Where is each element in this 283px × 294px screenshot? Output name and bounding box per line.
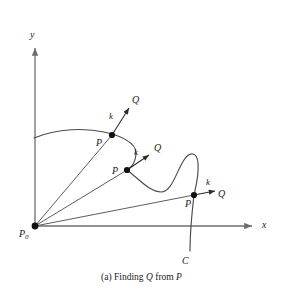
point-marker-origin <box>32 223 39 230</box>
vector-label-k1: k <box>109 112 113 121</box>
vector-label-k3: k <box>206 178 210 187</box>
figure-container: y x P0 P k Q P k Q P k Q C (a) Finding Q… <box>0 0 283 294</box>
curve-c <box>34 130 198 251</box>
caption-prefix: (a) Finding <box>101 272 143 282</box>
ray-to-point-2 <box>35 170 127 226</box>
x-axis-label: x <box>262 220 266 230</box>
point-label-p3: P <box>185 199 191 209</box>
target-label-q3: Q <box>218 189 225 199</box>
diagram-canvas <box>0 0 283 294</box>
target-label-q2: Q <box>154 143 161 153</box>
point-marker-p1 <box>109 132 115 138</box>
origin-label-subscript: 0 <box>25 233 29 241</box>
y-axis-label: y <box>30 30 34 40</box>
figure-caption: (a) Finding Q from P <box>0 272 283 282</box>
origin-point-label: P0 <box>19 229 29 241</box>
ray-to-point-3 <box>35 195 194 226</box>
target-label-q1: Q <box>132 95 139 105</box>
point-label-p1: P <box>96 138 102 148</box>
vector-label-k2: k <box>134 148 138 157</box>
caption-p: P <box>176 272 182 282</box>
caption-mid: from <box>155 272 173 282</box>
vector-k-3 <box>194 191 215 195</box>
vector-k-1 <box>112 108 129 135</box>
ray-to-point-1 <box>35 135 112 226</box>
point-label-p2: P <box>112 166 118 176</box>
point-marker-p3 <box>191 192 197 198</box>
point-marker-p2 <box>124 167 130 173</box>
curve-label-c: C <box>182 256 189 266</box>
vector-k-2 <box>127 155 149 170</box>
caption-q: Q <box>146 272 153 282</box>
